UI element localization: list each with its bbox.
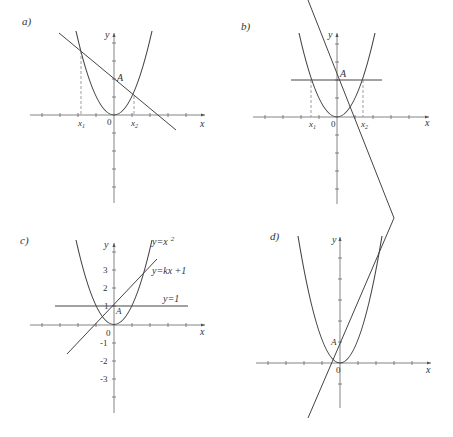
point-a-label: A [339,68,347,79]
panel-b-title: b) [241,20,251,33]
panel-a-title: a) [22,15,32,28]
x-axis-label: x [199,118,205,129]
point-a-label: A [330,337,337,347]
line-through-a-stroke [308,218,394,418]
line-through-a [308,0,394,218]
horizontal-line-label: y=1 [162,293,179,304]
origin-label: 0 [106,328,111,338]
y-axis-label: y [327,29,333,40]
y-axis-label: y [104,29,110,40]
y-tick-neg2: -2 [100,356,108,366]
panel-a: a) A y x 0 x1 x2 [22,15,205,203]
panel-c-title: c) [20,234,29,247]
panel-d-title: d) [270,230,280,243]
y-tick-neg3: -3 [100,374,108,384]
x-axis-label: x [425,364,431,375]
x1-label: x1 [308,119,316,130]
x1-label: x1 [77,118,85,129]
origin-label: 0 [107,117,112,127]
x-axis-label: x [199,326,205,337]
origin-label: 0 [331,119,336,129]
x2-label: x2 [360,119,368,130]
point-a-label: A [115,306,122,316]
y-tick-3: 3 [103,265,108,275]
figure-canvas: a) A y x 0 x1 x2 b) [0,0,453,437]
y-tick-2: 2 [103,283,108,293]
parabola-label: y=x2 [151,235,175,247]
panel-b: b) A y x 0 x1 x2 [241,20,430,204]
y-axis-label: y [331,234,337,245]
x2-label: x2 [130,118,138,129]
y-axis-label: y [103,239,109,250]
panel-c: c) 3 2 1 -1 -2 -3 A y x 0 y=x2 y=kx +1 y… [20,234,205,413]
point-a-label: A [116,72,124,83]
x-axis-label: x [424,117,430,128]
origin-label: 0 [336,365,341,375]
panel-d: d) A y x 0 [256,0,431,418]
line-label: y=kx +1 [151,265,186,276]
y-tick-neg1: -1 [100,338,108,348]
